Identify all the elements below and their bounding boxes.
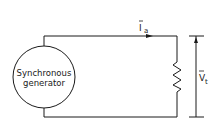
generator-label-line2: generator [23,78,65,88]
top-wire [44,36,177,62]
resistor-icon [173,62,181,92]
current-label: I [139,23,142,33]
bottom-wire [44,92,177,117]
voltage-label-subscript: t [205,78,208,86]
generator-label-line1: Synchronous [17,68,72,78]
current-label-subscript: a [144,27,148,35]
circuit-diagram: Synchronous generator I a V t [0,0,216,126]
voltage-arrow-icon [194,37,198,43]
